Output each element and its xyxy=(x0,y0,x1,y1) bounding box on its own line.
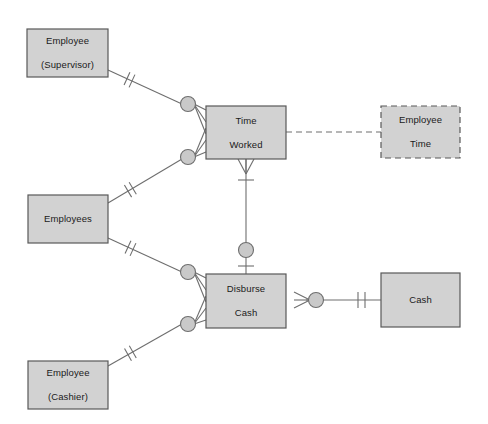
line-employees-to-disburse-cash xyxy=(108,238,182,272)
line-cashier-to-disburse-cash xyxy=(108,324,182,366)
line-supervisor-to-time-worked xyxy=(108,70,182,104)
circle-time-worked-upper xyxy=(181,97,196,112)
crows-foot-disburse-cash-lower xyxy=(194,296,206,324)
entity-box-employee-cashier[interactable] xyxy=(28,361,108,409)
entity-box-disburse-cash[interactable] xyxy=(206,274,286,328)
er-diagram-canvas xyxy=(0,0,488,424)
crows-foot-disburse-cash-right xyxy=(294,292,310,308)
entity-box-time-worked[interactable] xyxy=(206,106,286,159)
entity-box-employees[interactable] xyxy=(28,195,108,243)
circle-disburse-cash-lower xyxy=(181,317,196,332)
line-employees-to-time-worked xyxy=(108,159,182,203)
circle-disburse-cash-upper xyxy=(181,265,196,280)
entity-boxes xyxy=(27,29,460,409)
entity-box-employee-supervisor[interactable] xyxy=(27,29,108,77)
circle-time-worked-lower xyxy=(181,150,196,165)
circle-vertical-connector xyxy=(239,243,254,258)
circle-disburse-cash-right xyxy=(309,293,324,308)
crows-foot-time-worked-upper xyxy=(194,104,206,134)
crows-foot-time-worked-bottom xyxy=(238,159,254,174)
entity-box-cash[interactable] xyxy=(381,273,460,327)
er-diagram: Employee (Supervisor) Employees Employee… xyxy=(0,0,488,424)
crows-foot-disburse-cash-upper xyxy=(194,272,206,302)
entity-box-employee-time[interactable] xyxy=(381,106,460,158)
crows-foot-time-worked-lower xyxy=(194,128,206,157)
